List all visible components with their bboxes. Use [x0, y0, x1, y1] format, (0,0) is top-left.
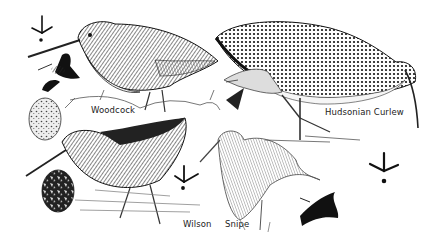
flying-bird-icon — [300, 192, 338, 226]
snipe-label: Snipe — [225, 219, 249, 229]
footprint-icon — [370, 153, 398, 182]
flying-bird-icon — [38, 53, 80, 92]
curlew-label: Hudsonian Curlew — [325, 107, 404, 117]
egg-icon — [29, 98, 61, 140]
wilson-label: Wilson — [183, 219, 212, 229]
bird-illustration — [0, 0, 447, 247]
footprint-icon — [175, 166, 198, 189]
footprint-icon — [32, 16, 52, 41]
woodcock-label: Woodcock — [91, 105, 135, 115]
egg-icon — [42, 170, 74, 212]
